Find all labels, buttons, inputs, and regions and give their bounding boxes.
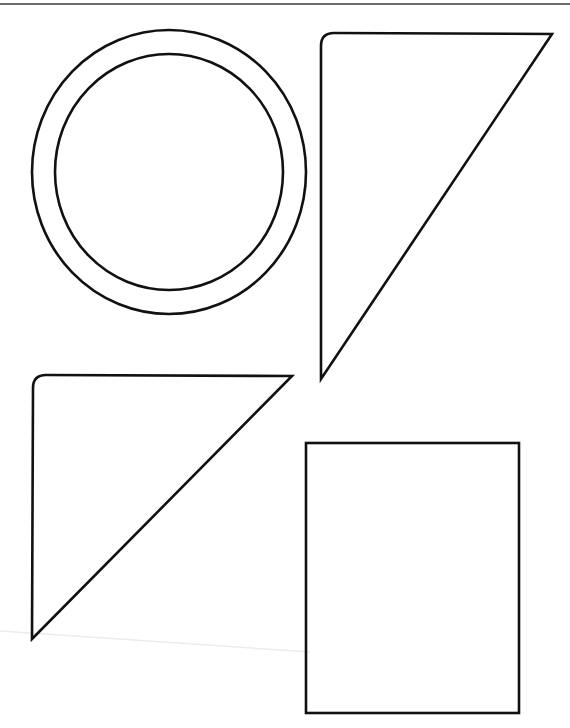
scan-artifact-line [0,631,310,652]
rectangle-shape [306,443,519,713]
ring-shape [32,30,306,314]
outer-circle [32,30,306,314]
right-triangle-bottom [32,375,292,639]
worksheet-page [0,0,570,728]
shapes-canvas [0,0,570,728]
right-triangle-top [321,33,552,379]
inner-circle [55,54,283,290]
